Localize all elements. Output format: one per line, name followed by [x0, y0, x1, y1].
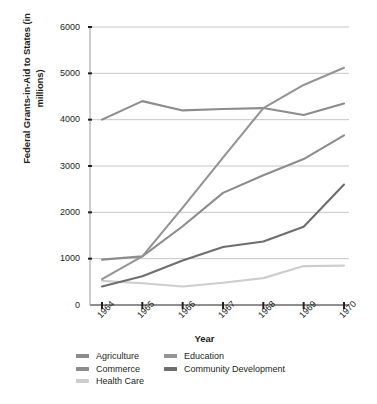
legend-label: Commerce — [96, 363, 140, 376]
series-line-community-development — [102, 185, 344, 287]
legend-swatch — [164, 367, 177, 371]
plot-area — [88, 22, 350, 310]
legend-item: Commerce — [76, 363, 144, 376]
y-tick-label: 2000 — [44, 208, 80, 217]
legend-swatch — [76, 367, 89, 371]
legend-label: Community Development — [184, 363, 285, 376]
legend-item: Health Care — [76, 375, 144, 388]
legend-swatch — [76, 379, 89, 383]
legend-label: Education — [184, 350, 224, 363]
legend-label: Agriculture — [96, 350, 139, 363]
legend-item: Agriculture — [76, 350, 144, 363]
legend-item: Education — [164, 350, 285, 363]
y-tick-label: 1000 — [44, 254, 80, 263]
y-tick-label: 4000 — [44, 115, 80, 124]
legend-label: Health Care — [96, 375, 144, 388]
y-tick-label: 3000 — [44, 162, 80, 171]
series-line-commerce — [102, 135, 344, 259]
y-tick-label: 5000 — [44, 69, 80, 78]
y-axis-title: Federal Grants-in-Aid to States (in mill… — [21, 0, 46, 184]
legend-item: Community Development — [164, 363, 285, 376]
legend-column-left: AgricultureCommerceHealth Care — [76, 350, 144, 388]
x-axis-title-text: Year — [194, 333, 214, 344]
legend-swatch — [76, 354, 89, 358]
legend-column-right: EducationCommunity Development — [164, 350, 285, 375]
chart-figure: Federal Grants-in-Aid to States (in mill… — [0, 0, 377, 404]
y-tick-label: 0 — [44, 301, 80, 310]
series-line-health-care — [102, 266, 344, 287]
series-line-agriculture — [102, 101, 344, 120]
y-tick-label: 6000 — [44, 23, 80, 32]
legend-swatch — [164, 354, 177, 358]
x-axis-title: Year — [0, 333, 377, 344]
line-chart-svg — [88, 22, 350, 310]
